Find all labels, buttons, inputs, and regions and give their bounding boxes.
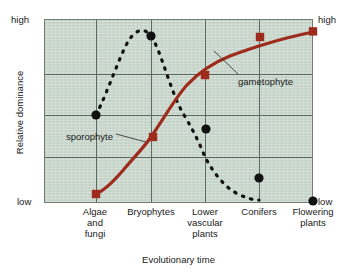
sporophyte-marker-0 xyxy=(92,190,100,198)
gametophyte-marker-0 xyxy=(91,110,100,119)
right-axis-high-label: high xyxy=(318,15,336,25)
y-axis-high-label: high xyxy=(11,15,29,25)
x-tick-line-2-2: plants xyxy=(172,228,238,239)
gametophyte-marker-1 xyxy=(146,31,155,40)
sporophyte-marker-3 xyxy=(256,33,264,41)
sporophyte-marker-2 xyxy=(201,71,209,79)
gametophyte-marker-2 xyxy=(201,124,210,133)
x-tick-line-0-1: and xyxy=(62,217,128,228)
gametophyte-marker-3 xyxy=(254,173,263,182)
x-tick-label-flowering-plants: Flowering plants xyxy=(280,206,346,228)
sporophyte-annotation-label: sporophyte xyxy=(66,131,113,142)
series-curves xyxy=(45,20,314,204)
sporophyte-curve xyxy=(96,32,313,194)
x-tick-line-4-0: Flowering xyxy=(280,206,346,217)
gametophyte-marker-4 xyxy=(308,196,317,205)
sporophyte-marker-1 xyxy=(149,133,157,141)
x-tick-line-2-1: vascular xyxy=(172,217,238,228)
plot-area xyxy=(44,19,313,203)
gametophyte-annotation-label: gametophyte xyxy=(238,76,293,87)
x-tick-line-0-2: fungi xyxy=(62,228,128,239)
x-axis-title: Evolutionary time xyxy=(44,254,313,265)
x-tick-line-4-1: plants xyxy=(280,217,346,228)
sporophyte-marker-4 xyxy=(309,27,317,35)
evolutionary-dominance-chart: Relative dominance high low high low xyxy=(0,0,352,277)
y-axis-title: Relative dominance xyxy=(14,53,25,173)
y-axis-low-label: low xyxy=(17,197,31,207)
